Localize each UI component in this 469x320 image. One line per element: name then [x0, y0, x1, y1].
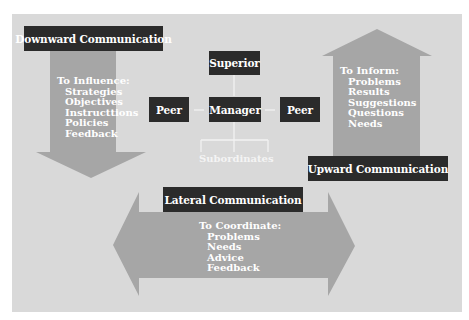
upward-communication-label: Upward Communication [308, 156, 448, 181]
downward-content: To Influence: Strategies Objectives Inst… [57, 76, 138, 140]
peer-right-box: Peer [280, 97, 320, 122]
subordinates-label: Subordinates [199, 153, 274, 164]
upward-item: Needs [340, 119, 416, 130]
upward-content: To Inform: Problems Results Suggestions … [340, 66, 416, 130]
lateral-item: Feedback [199, 263, 281, 274]
downward-heading: To Influence: [57, 76, 138, 87]
lateral-heading: To Coordinate: [199, 221, 281, 232]
downward-communication-label: Downward Communication [24, 26, 163, 51]
lateral-communication-label: Lateral Communication [163, 187, 303, 212]
upward-heading: To Inform: [340, 66, 416, 77]
superior-box: Superior [209, 51, 260, 75]
lateral-content: To Coordinate: Problems Needs Advice Fee… [199, 221, 281, 274]
peer-left-box: Peer [149, 97, 189, 122]
manager-box: Manager [209, 97, 261, 122]
downward-item: Feedback [57, 129, 138, 140]
